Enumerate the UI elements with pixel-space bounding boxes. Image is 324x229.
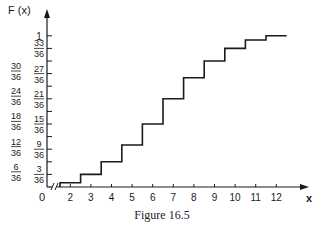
y-tick-denominator: 36 <box>34 175 44 185</box>
x-tick-label: 6 <box>150 192 156 203</box>
y-axis-label: F (x) <box>8 4 31 16</box>
y-tick-denominator: 36 <box>34 100 44 110</box>
y-tick-denominator: 36 <box>34 49 44 59</box>
y-tick-denominator: 36 <box>34 75 44 85</box>
y-tick-numerator: 21 <box>34 89 44 99</box>
x-tick-label: 2 <box>68 192 74 203</box>
y-tick-numerator: 30 <box>11 61 21 71</box>
x-axis-label: x <box>306 192 313 204</box>
x-tick-label: 7 <box>171 192 177 203</box>
x-tick-label: 8 <box>191 192 197 203</box>
x-tick-label: 5 <box>129 192 135 203</box>
y-tick-numerator: 3 <box>36 164 41 174</box>
cdf-step-line <box>60 36 287 187</box>
x-tick-label: 4 <box>109 192 115 203</box>
y-tick-numerator: 18 <box>11 111 21 121</box>
y-tick-numerator: 15 <box>34 114 44 124</box>
y-tick-denominator: 36 <box>34 150 44 160</box>
y-tick-denominator: 36 <box>11 72 21 82</box>
y-axis-arrow-icon <box>44 9 50 18</box>
y-tick-numerator: 24 <box>11 86 21 96</box>
x-tick-label: 9 <box>212 192 218 203</box>
y-tick-label: 1 <box>36 31 42 42</box>
origin-label: 0 <box>39 191 45 203</box>
x-tick-label: 12 <box>271 192 283 203</box>
y-tick-numerator: 12 <box>11 137 21 147</box>
y-tick-denominator: 36 <box>11 97 21 107</box>
y-tick-numerator: 6 <box>13 162 18 172</box>
figure-caption: Figure 16.5 <box>0 208 324 223</box>
y-tick-numerator: 9 <box>36 139 41 149</box>
y-tick-numerator: 27 <box>34 64 44 74</box>
x-axis-arrow-icon <box>300 184 309 190</box>
cdf-step-chart: F (x)x0234567891011123366369361236153618… <box>0 0 324 229</box>
y-tick-denominator: 36 <box>11 122 21 132</box>
x-tick-label: 11 <box>251 192 262 203</box>
y-tick-denominator: 36 <box>11 173 21 183</box>
y-tick-denominator: 36 <box>34 125 44 135</box>
x-tick-label: 3 <box>88 192 94 203</box>
x-tick-label: 10 <box>230 192 242 203</box>
y-tick-denominator: 36 <box>11 148 21 158</box>
